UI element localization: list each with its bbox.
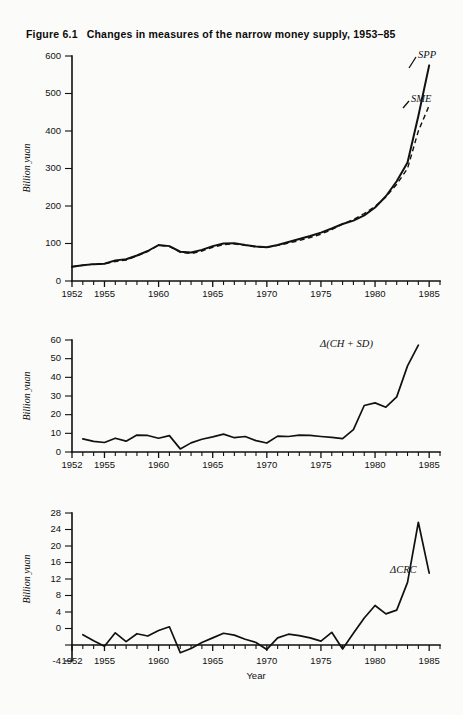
chart-bottom-axes <box>72 513 440 661</box>
ytick-label-top-4: 400 <box>45 125 61 136</box>
series-line-ch-sd <box>83 345 419 449</box>
xtick-label: 1975 <box>310 459 331 470</box>
series-line-crc <box>83 522 429 652</box>
x-axis-title-bottom: Year <box>246 670 265 681</box>
ytick-label-bot-2: 4 <box>56 606 61 617</box>
chart-middle-xticks <box>72 452 440 458</box>
chart-middle-xlabels: 19521955196019651970197519801985 <box>61 459 439 470</box>
series-label-sme: SME <box>411 93 432 104</box>
ytick-label-mid-3: 30 <box>50 390 61 401</box>
ytick-label-mid-5: 50 <box>50 352 61 363</box>
series-line-sme <box>72 106 429 267</box>
chart-bottom-xticks <box>72 645 440 651</box>
xtick-label: 1980 <box>364 459 385 470</box>
ytick-label-mid-0: 0 <box>56 446 61 457</box>
ytick-label-bot-4: 12 <box>50 573 61 584</box>
ytick-label-top-5: 500 <box>45 87 61 98</box>
ytick-label-top-2: 200 <box>45 200 61 211</box>
xtick-label: 1970 <box>256 288 277 299</box>
figure-number: Figure 6.1 <box>26 28 78 40</box>
chart-middle-series <box>83 345 419 449</box>
y-axis-title-bottom: Billion yuan <box>21 554 32 603</box>
chart-top-series <box>72 65 429 266</box>
ytick-label-bot-5: 16 <box>50 556 61 567</box>
chart-top-svg: 600 500 400 300 200 100 0 19521955196019… <box>0 45 463 310</box>
series-label-crc: ΔCRC <box>389 564 418 575</box>
ytick-label-top-3: 300 <box>45 162 61 173</box>
ytick-label-top-6: 600 <box>45 50 61 61</box>
xtick-label: 1960 <box>148 288 169 299</box>
xtick-label: 1955 <box>94 288 115 299</box>
xtick-label: 1975 <box>310 655 331 666</box>
xtick-label: 1955 <box>94 655 115 666</box>
ytick-label-top-0: 0 <box>56 275 61 286</box>
ytick-label-bot-0: -4 <box>53 655 61 666</box>
xtick-label: 1965 <box>202 459 223 470</box>
xtick-label: 1975 <box>310 288 331 299</box>
ytick-label-mid-6: 60 <box>50 334 61 345</box>
xtick-label: 1980 <box>364 288 385 299</box>
xtick-label: 1965 <box>202 655 223 666</box>
chart-middle-yticks: 60 50 40 30 20 10 0 <box>50 334 72 457</box>
ytick-label-mid-4: 40 <box>50 371 61 382</box>
chart-panel-middle: 60 50 40 30 20 10 0 19521955196019651970… <box>0 325 463 480</box>
xtick-label: 1985 <box>419 655 440 666</box>
xtick-label: 1952 <box>61 288 82 299</box>
ytick-label-mid-1: 10 <box>50 427 61 438</box>
ytick-label-top-1: 100 <box>45 237 61 248</box>
chart-bottom-series <box>83 522 429 652</box>
chart-top-series-labels: SPP SME <box>403 49 437 108</box>
chart-middle-axes <box>72 340 440 452</box>
ytick-label-bot-3: 8 <box>56 589 61 600</box>
chart-bottom-yticks: 28 24 20 16 12 8 4 0 -4 <box>50 507 72 666</box>
xtick-label: 1952 <box>61 459 82 470</box>
ytick-label-mid-2: 20 <box>50 408 61 419</box>
y-axis-title-middle: Billion yuan <box>21 371 32 420</box>
chart-top-xlabels: 19521955196019651970197519801985 <box>61 288 439 299</box>
xtick-label: 1985 <box>419 459 440 470</box>
figure-page: Figure 6.1Changes in measures of the nar… <box>0 0 463 715</box>
figure-caption: Figure 6.1Changes in measures of the nar… <box>26 28 396 40</box>
chart-bottom-svg: 28 24 20 16 12 8 4 0 -4 1952195519601965… <box>0 495 463 690</box>
chart-middle-svg: 60 50 40 30 20 10 0 19521955196019651970… <box>0 325 463 480</box>
chart-panel-bottom: 28 24 20 16 12 8 4 0 -4 1952195519601965… <box>0 495 463 690</box>
xtick-label: 1970 <box>256 459 277 470</box>
chart-top-xticks <box>72 281 440 287</box>
xtick-label: 1985 <box>419 288 440 299</box>
xtick-label: 1952 <box>61 655 82 666</box>
chart-panel-top: 600 500 400 300 200 100 0 19521955196019… <box>0 45 463 310</box>
figure-title-text: Changes in measures of the narrow money … <box>87 28 396 40</box>
ytick-label-bot-8: 28 <box>50 507 61 518</box>
xtick-label: 1980 <box>364 655 385 666</box>
chart-top-yticks: 600 500 400 300 200 100 0 <box>45 50 72 286</box>
series-line-spp <box>72 65 429 266</box>
xtick-label: 1970 <box>256 655 277 666</box>
chart-bottom-xlabels: 19521955196019651970197519801985 <box>61 655 439 666</box>
xtick-label: 1965 <box>202 288 223 299</box>
ytick-label-bot-6: 20 <box>50 540 61 551</box>
ytick-label-bot-7: 24 <box>50 523 61 534</box>
xtick-label: 1955 <box>94 459 115 470</box>
ytick-label-bot-1: 0 <box>56 622 61 633</box>
y-axis-title-top: Billion yuan <box>21 143 32 192</box>
series-label-ch-sd: Δ(CH + SD) <box>319 338 373 350</box>
xtick-label: 1960 <box>148 655 169 666</box>
series-label-spp: SPP <box>418 49 437 60</box>
xtick-label: 1960 <box>148 459 169 470</box>
